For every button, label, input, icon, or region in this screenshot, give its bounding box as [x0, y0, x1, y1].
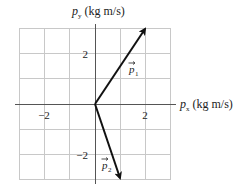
y-axis-label: py(kg m/s) [71, 4, 125, 20]
svg-text:1: 1 [135, 70, 139, 78]
vector-p2-label: p 2 [101, 158, 112, 175]
x-tick-neg2: −2 [38, 109, 50, 121]
y-tick-2: 2 [83, 48, 89, 60]
x-tick-2: 2 [142, 109, 148, 121]
x-axis-label: px(kg m/s) [179, 97, 233, 113]
y-tick-neg2: −2 [76, 149, 88, 161]
svg-text:p: p [101, 159, 108, 171]
vector-p1-label: p 1 [128, 62, 139, 79]
momentum-diagram: py(kg m/s) px(kg m/s) −2 2 2 −2 p 1 p 2 [0, 0, 236, 191]
svg-text:p: p [128, 63, 135, 75]
svg-text:2: 2 [108, 166, 112, 174]
